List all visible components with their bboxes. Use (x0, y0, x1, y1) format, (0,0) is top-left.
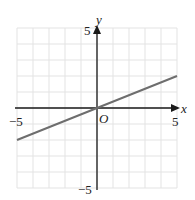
y-axis-label: y (94, 12, 102, 27)
x-min-tick-label: −5 (9, 114, 23, 129)
x-axis-label: x (180, 101, 187, 116)
y-max-tick-label: 5 (84, 23, 91, 38)
coordinate-plane: x y O −5 5 5 −5 (0, 0, 195, 200)
origin-label: O (99, 111, 109, 126)
x-max-tick-label: 5 (172, 114, 179, 129)
x-axis-arrow-icon (171, 104, 180, 112)
y-min-tick-label: −5 (78, 182, 92, 197)
